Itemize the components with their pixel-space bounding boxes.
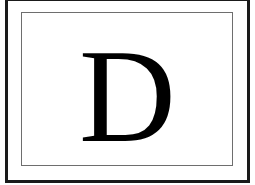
letter-glyph: D [79, 29, 176, 163]
letter-card: D [0, 0, 255, 185]
letter-display: D [0, 0, 255, 185]
